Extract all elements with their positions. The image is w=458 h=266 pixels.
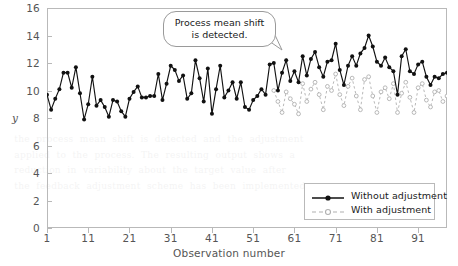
- data-point: [371, 45, 375, 49]
- x-tick-label: 81: [362, 232, 392, 244]
- data-point: [127, 97, 131, 101]
- data-point: [297, 80, 301, 84]
- data-point: [148, 94, 152, 98]
- data-point: [400, 54, 404, 58]
- data-point: [276, 100, 280, 104]
- data-point: [103, 105, 107, 109]
- data-point: [358, 51, 362, 55]
- data-point: [359, 108, 363, 112]
- y-tick-label: 2: [14, 195, 40, 207]
- callout-line-2: is detected.: [192, 29, 248, 42]
- y-axis-label: y: [12, 112, 18, 124]
- data-point: [313, 80, 317, 84]
- legend-item-with-adjustment: With adjustment: [311, 202, 428, 216]
- data-point: [156, 72, 160, 76]
- data-point: [309, 87, 313, 91]
- data-point: [437, 76, 441, 80]
- x-tick-mark: [212, 228, 213, 233]
- data-point: [367, 34, 371, 38]
- data-point: [350, 76, 354, 80]
- data-point: [53, 97, 57, 101]
- data-point: [259, 87, 263, 91]
- data-point: [297, 112, 301, 116]
- data-point: [354, 94, 358, 98]
- data-point: [420, 82, 424, 86]
- x-tick-mark: [418, 228, 419, 233]
- data-point: [132, 90, 136, 94]
- data-point: [272, 89, 276, 93]
- legend-key-dashed-open-circle: [311, 203, 345, 215]
- x-axis-label: Observation number: [0, 247, 458, 259]
- data-point: [115, 100, 119, 104]
- data-point: [433, 90, 437, 94]
- data-point: [375, 60, 379, 64]
- data-point: [255, 94, 259, 98]
- y-tick-label: 12: [14, 57, 40, 69]
- data-point: [49, 108, 53, 112]
- data-point: [383, 86, 387, 90]
- process-mean-shift-callout: Process mean shift is detected.: [163, 11, 276, 47]
- data-point: [301, 54, 305, 58]
- data-point: [202, 100, 206, 104]
- data-point: [251, 98, 255, 102]
- data-point: [94, 104, 98, 108]
- data-point: [424, 75, 428, 79]
- x-tick-mark: [253, 228, 254, 233]
- y-tick-label: 10: [14, 85, 40, 97]
- data-point: [57, 87, 61, 91]
- data-point: [445, 94, 447, 98]
- data-point: [391, 82, 395, 86]
- x-tick-label: 61: [279, 232, 309, 244]
- data-point: [445, 71, 447, 75]
- x-tick-label: 11: [73, 232, 103, 244]
- data-point: [293, 102, 297, 106]
- data-point: [185, 97, 189, 101]
- data-point: [74, 65, 78, 69]
- data-point: [309, 57, 313, 61]
- data-point: [408, 69, 412, 73]
- data-point: [206, 67, 210, 71]
- data-point: [387, 65, 391, 69]
- x-tick-label: 1: [32, 232, 62, 244]
- x-tick-mark: [171, 228, 172, 233]
- data-point: [383, 56, 387, 60]
- data-point: [272, 61, 276, 65]
- data-point: [321, 75, 325, 79]
- chart-figure: the process mean shift is detected and t…: [0, 0, 458, 266]
- data-point: [193, 58, 197, 62]
- data-point: [189, 91, 193, 95]
- data-point: [264, 93, 268, 97]
- data-point: [424, 98, 428, 102]
- data-point: [346, 64, 350, 68]
- callout-line-1: Process mean shift: [175, 17, 265, 30]
- data-point: [396, 93, 400, 97]
- data-point: [321, 108, 325, 112]
- data-point: [334, 42, 338, 46]
- data-point: [292, 69, 296, 73]
- data-point: [222, 95, 226, 99]
- x-tick-mark: [294, 228, 295, 233]
- data-point: [235, 97, 239, 101]
- series-with-adjustment: [272, 72, 447, 116]
- y-tick-label: 4: [14, 167, 40, 179]
- data-point: [247, 108, 251, 112]
- x-tick-label: 71: [321, 232, 351, 244]
- data-point: [404, 47, 408, 51]
- data-point: [367, 75, 371, 79]
- data-point: [173, 68, 177, 72]
- data-point: [61, 71, 65, 75]
- data-point: [429, 105, 433, 109]
- x-tick-label: 51: [238, 232, 268, 244]
- x-tick-label: 91: [403, 232, 433, 244]
- x-tick-label: 41: [197, 232, 227, 244]
- x-tick-mark: [47, 228, 48, 233]
- data-point: [123, 115, 127, 119]
- data-point: [416, 86, 420, 90]
- data-point: [111, 98, 115, 102]
- chart-legend: Without adjustment With adjustment: [304, 183, 435, 220]
- data-point: [284, 58, 288, 62]
- data-point: [433, 75, 437, 79]
- data-point: [400, 91, 404, 95]
- data-point: [363, 78, 367, 82]
- data-point: [387, 97, 391, 101]
